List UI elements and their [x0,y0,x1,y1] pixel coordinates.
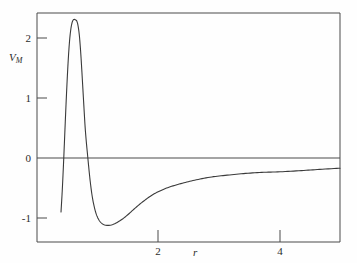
plot-frame [37,13,340,242]
x-axis-title: r [193,247,197,258]
y-axis-title-base: V [9,51,16,63]
figure-container: 2 1 0 -1 2 4 VM r [0,0,357,263]
plot-svg [0,0,357,263]
y-tick-label-minus-1: -1 [5,213,31,224]
x-tick-label-4: 4 [270,246,290,257]
y-tick-label-2: 2 [5,33,31,44]
y-tick-label-0: 0 [5,153,31,164]
y-tick-label-1: 1 [5,93,31,104]
x-axis-ticks [158,230,280,242]
data-curve-VM [61,19,340,225]
y-axis-title-subscript: M [16,56,23,65]
y-axis-ticks [37,38,47,218]
x-tick-label-2: 2 [148,246,168,257]
y-axis-title: VM [9,52,22,65]
